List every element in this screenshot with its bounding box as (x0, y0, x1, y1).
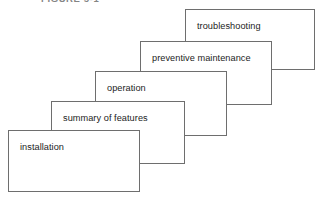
cascade-diagram: troubleshootingpreventive maintenanceope… (0, 0, 322, 201)
figure-container: FIGURE 5-1 troubleshootingpreventive mai… (0, 0, 322, 201)
cascade-card-label: installation (20, 142, 64, 153)
cascade-card-label: preventive maintenance (152, 53, 251, 64)
cascade-card[interactable]: installation (8, 130, 140, 192)
cascade-card-label: summary of features (63, 113, 148, 124)
cascade-card-label: operation (107, 83, 146, 94)
cascade-card-label: troubleshooting (197, 21, 261, 32)
